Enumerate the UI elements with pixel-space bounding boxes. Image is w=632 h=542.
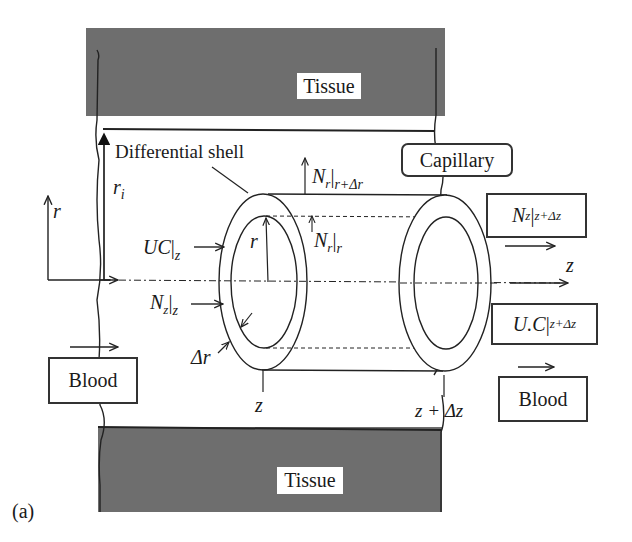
shell-left-outer-ring [219,194,307,370]
uc-zdz-main: U.C [513,313,546,336]
blood-right-box: Blood [498,376,588,422]
z-start-label: z [254,394,263,416]
blood-left-box: Blood [48,357,138,404]
radius-arrow [266,218,268,282]
ri-label: ri [113,176,125,202]
panel-label: (a) [12,500,34,523]
nz-zdz-sub: z+Δz [534,208,561,224]
shell-leader-line [212,167,248,193]
nz-zdz-box: Nz|z+Δz [486,193,587,238]
tissue-top-label: Tissue [297,73,361,99]
differential-shell-label: Differential shell [115,141,244,162]
capillary-wall-top [103,129,435,131]
nz-zdz-main: N [512,204,525,227]
z-end-label: z + Δz [414,400,464,421]
nr-inner-label: Nr|r [313,229,342,256]
uc-z-label: UC|z [143,236,181,263]
nz-z-label: Nz|z [149,291,178,318]
tissue-bottom-label: Tissue [277,467,343,494]
radius-label: r [250,230,258,252]
r-axis-label: r [53,200,61,222]
shell-left-inner-ring [231,216,297,348]
capillary-label: Capillary [401,143,513,177]
z-axis-label: z [565,254,574,276]
tissue-bottom-region [98,427,442,512]
uc-zdz-sub: z+Δz [550,316,577,332]
shell-outer-bottom [262,370,443,371]
uc-zdz-box: U.C|z+Δz [491,303,598,345]
shell-outer-top [268,194,447,195]
nr-outer-label: Nr|r+Δr [311,165,364,192]
tissue-top-region [86,28,445,116]
delta-r-arrow-inner [241,313,252,327]
delta-r-arrow-outer [218,342,229,353]
delta-r-label: Δr [190,346,211,368]
